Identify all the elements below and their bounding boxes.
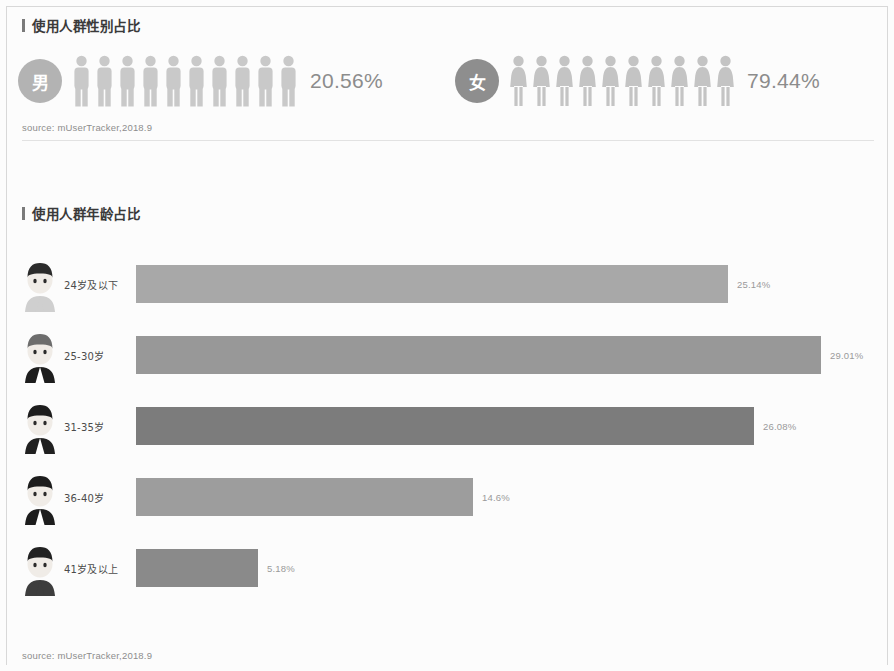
gender-group-male: 男20.56%	[18, 52, 383, 110]
person-icon-row	[72, 55, 298, 107]
title-accent-bar	[22, 19, 25, 32]
age-bar-row: 25-30岁29.01%	[22, 323, 882, 387]
gender-section-title: 使用人群性别占比	[22, 15, 140, 35]
gender-source-label: source: mUserTracker,2018.9	[22, 122, 152, 133]
age-bar-row: 24岁及以下25.14%	[22, 252, 882, 316]
avatar-young-man-icon	[22, 256, 58, 312]
age-range-label: 31-35岁	[58, 419, 136, 434]
avatar-suited-man-icon	[22, 327, 58, 383]
female-person-icon	[693, 55, 712, 107]
bar-value-label: 26.08%	[763, 421, 796, 432]
page-frame-left	[6, 6, 7, 665]
bar-track: 14.6%	[136, 477, 882, 517]
male-person-icon	[164, 55, 183, 107]
gender-percent-label: 79.44%	[747, 69, 820, 93]
male-person-icon	[95, 55, 114, 107]
male-person-icon	[72, 55, 91, 107]
female-person-icon	[716, 55, 735, 107]
female-person-icon	[647, 55, 666, 107]
bar-value-label: 25.14%	[737, 279, 770, 290]
gender-group-female: 女79.44%	[455, 52, 820, 110]
age-range-label: 41岁及以上	[58, 561, 136, 576]
age-range-label: 25-30岁	[58, 348, 136, 363]
age-bar-row: 41岁及以上5.18%	[22, 536, 882, 600]
female-person-icon	[601, 55, 620, 107]
bar-value-label: 14.6%	[482, 492, 510, 503]
gender-section-title-text: 使用人群性别占比	[32, 15, 140, 35]
bar	[136, 478, 473, 516]
male-person-icon	[118, 55, 137, 107]
gender-badge-female: 女	[455, 59, 499, 103]
female-person-icon	[509, 55, 528, 107]
bar	[136, 549, 258, 587]
age-bar-row: 36-40岁14.6%	[22, 465, 882, 529]
bar	[136, 336, 821, 374]
male-person-icon	[233, 55, 252, 107]
bar	[136, 265, 728, 303]
avatar-businessman-icon	[22, 398, 58, 454]
page-frame-top	[6, 6, 888, 7]
avatar-older-man-icon	[22, 540, 58, 596]
age-range-label: 24岁及以下	[58, 277, 136, 292]
gender-badge-male: 男	[18, 59, 62, 103]
bar	[136, 407, 754, 445]
bar-track: 29.01%	[136, 335, 882, 375]
age-section-title: 使用人群年龄占比	[22, 203, 140, 223]
female-person-icon	[578, 55, 597, 107]
bar-track: 25.14%	[136, 264, 882, 304]
male-person-icon	[256, 55, 275, 107]
female-person-icon	[532, 55, 551, 107]
bar-value-label: 5.18%	[267, 563, 295, 574]
female-person-icon	[555, 55, 574, 107]
title-accent-bar	[22, 207, 25, 220]
avatar-mustache-man-icon	[22, 469, 58, 525]
page-frame-right	[887, 6, 888, 665]
male-person-icon	[141, 55, 160, 107]
bar-track: 5.18%	[136, 548, 882, 588]
male-person-icon	[210, 55, 229, 107]
male-person-icon	[279, 55, 298, 107]
age-range-label: 36-40岁	[58, 490, 136, 505]
age-bar-row: 31-35岁26.08%	[22, 394, 882, 458]
report-page: 使用人群性别占比 男20.56%女79.44% source: mUserTra…	[0, 0, 894, 671]
section-divider	[22, 140, 874, 141]
gender-percent-label: 20.56%	[310, 69, 383, 93]
age-source-label: source: mUserTracker,2018.9	[22, 650, 152, 661]
age-section-title-text: 使用人群年龄占比	[32, 203, 140, 223]
female-person-icon	[670, 55, 689, 107]
bar-value-label: 29.01%	[830, 350, 863, 361]
person-icon-row	[509, 55, 735, 107]
bar-track: 26.08%	[136, 406, 882, 446]
female-person-icon	[624, 55, 643, 107]
male-person-icon	[187, 55, 206, 107]
